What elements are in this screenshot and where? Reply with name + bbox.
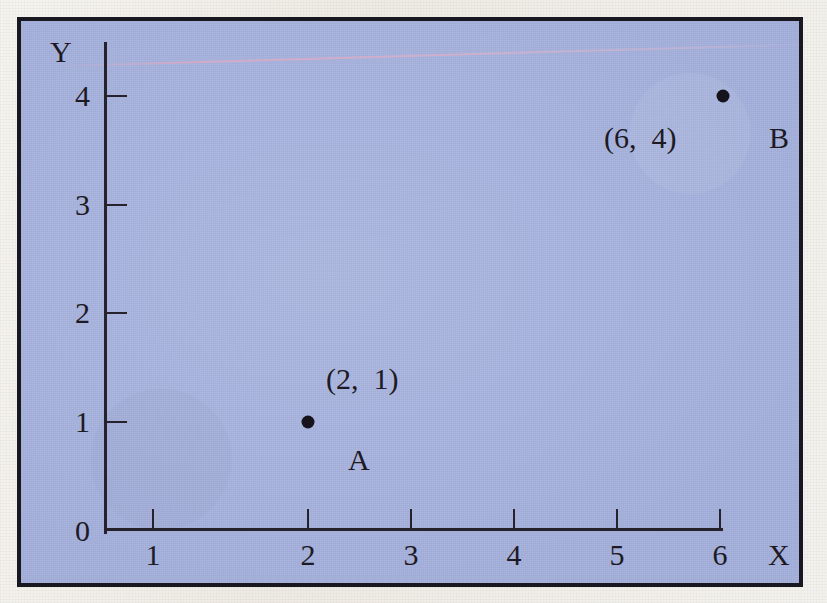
y-tick-mark-1 xyxy=(107,421,127,423)
scanned-figure-page: Y X 0 1 2 3 4 1 2 3 4 5 6 (2, 1) A (6, 4 xyxy=(0,0,827,603)
y-tick-mark-3 xyxy=(107,204,127,206)
data-point-b-marker xyxy=(717,90,730,103)
data-point-a-name-label: A xyxy=(348,445,370,475)
x-tick-label-2: 2 xyxy=(288,540,328,570)
plot-background xyxy=(21,21,799,583)
x-tick-label-3: 3 xyxy=(391,540,431,570)
y-tick-label-4: 4 xyxy=(50,81,90,111)
y-tick-label-1: 1 xyxy=(50,407,90,437)
x-tick-mark-1 xyxy=(152,509,154,528)
figure-frame: Y X 0 1 2 3 4 1 2 3 4 5 6 (2, 1) A (6, 4 xyxy=(17,17,803,587)
origin-tick-label: 0 xyxy=(50,516,90,546)
y-tick-label-2: 2 xyxy=(50,298,90,328)
x-tick-label-1: 1 xyxy=(133,540,173,570)
y-axis-line xyxy=(104,42,107,534)
data-point-a-marker xyxy=(302,416,315,429)
x-tick-mark-6 xyxy=(719,509,721,528)
x-tick-label-5: 5 xyxy=(597,540,637,570)
x-axis-label: X xyxy=(768,540,790,570)
y-tick-label-3: 3 xyxy=(50,190,90,220)
x-tick-mark-4 xyxy=(513,509,515,528)
y-axis-label: Y xyxy=(50,37,72,67)
data-point-a-coordinate-label: (2, 1) xyxy=(326,364,398,394)
data-point-b-name-label: B xyxy=(769,123,789,153)
x-tick-mark-5 xyxy=(616,509,618,528)
x-tick-mark-3 xyxy=(410,509,412,528)
y-tick-mark-2 xyxy=(107,312,127,314)
x-axis-line xyxy=(104,528,723,531)
data-point-b-coordinate-label: (6, 4) xyxy=(604,123,676,153)
x-tick-label-4: 4 xyxy=(494,540,534,570)
x-tick-label-6: 6 xyxy=(700,540,740,570)
y-tick-mark-4 xyxy=(107,95,127,97)
x-tick-mark-2 xyxy=(307,509,309,528)
